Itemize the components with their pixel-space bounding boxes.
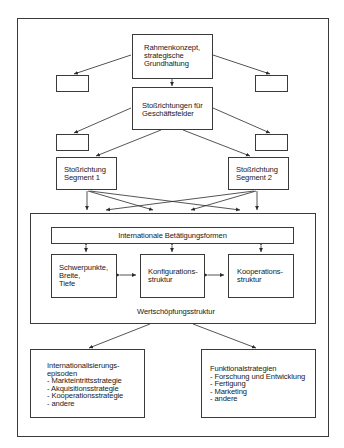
functional-line-5: - andere — [210, 395, 237, 403]
segment-2-line-2: Segment 2 — [236, 174, 272, 182]
focus-line-3: Tiefe — [59, 280, 75, 288]
cooperation-line-2: struktur — [237, 276, 262, 284]
international-forms-bar: Internationale Betätigungsformen — [51, 227, 294, 244]
segment-2-box: Stoßrichtung Segment 2 — [228, 157, 289, 190]
internationalization-line-6: - andere — [47, 400, 74, 408]
framework-box: Rahmenkonzept, strategische Grundhaltung — [132, 34, 213, 79]
functional-strategies-box: Funktionalstrategien - Forschung und Ent… — [201, 349, 316, 418]
empty-box-left-1 — [56, 75, 89, 92]
international-forms-label: Internationale Betätigungsformen — [52, 232, 293, 240]
empty-box-right-1 — [255, 75, 288, 92]
configuration-line-2: struktur — [148, 276, 173, 284]
business-fields-box: Stoßrichtungen für Geschäftsfelder — [132, 87, 213, 130]
segment-1-box: Stoßrichtung Segment 1 — [56, 157, 117, 190]
empty-box-right-2 — [255, 134, 288, 151]
framework-line-3: Grundhaltung — [144, 60, 189, 68]
cooperation-box: Kooperations- struktur — [228, 254, 294, 298]
configuration-box: Konfigurations- struktur — [140, 254, 205, 298]
internationalization-box: Internationalisierungs- episoden - Markt… — [30, 349, 145, 418]
empty-box-left-2 — [56, 134, 89, 151]
business-fields-line-2: Geschäftsfelder — [142, 110, 194, 118]
segment-1-line-2: Segment 1 — [64, 174, 100, 182]
value-chain-label: Wertschöpfungsstruktur — [137, 308, 215, 316]
focus-box: Schwerpunkte, Breite, Tiefe — [51, 254, 117, 298]
